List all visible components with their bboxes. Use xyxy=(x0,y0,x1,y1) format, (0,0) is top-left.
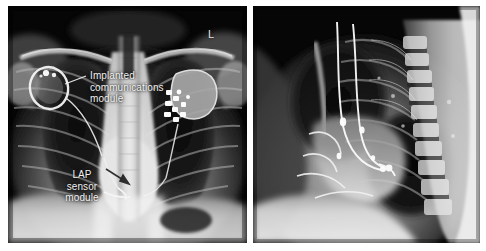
radiograph-figure: Implanted communications module LAP sens… xyxy=(0,0,486,251)
lateral-radiograph-image xyxy=(253,6,480,243)
panel-lateral-chest-radiograph: Lead connecting the ICM to the sensor mo… xyxy=(253,6,480,243)
pa-radiograph-image xyxy=(8,6,247,243)
laterality-marker-left-pa: L xyxy=(208,28,214,40)
panel-pa-chest-radiograph: Implanted communications module LAP sens… xyxy=(8,6,247,243)
